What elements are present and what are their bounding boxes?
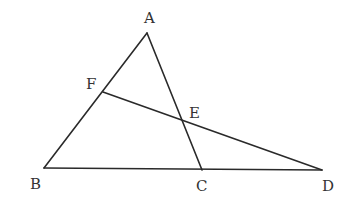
label-f: F [86,75,96,93]
label-a: A [143,9,155,27]
segment-fd [103,92,322,170]
segment-ab [44,33,147,168]
label-e: E [189,104,200,122]
segment-bd [44,168,322,170]
label-b: B [30,175,41,193]
segment-ac [147,33,202,170]
geometry-diagram: A B C D E F [0,0,354,208]
label-d: D [322,177,334,195]
label-c: C [196,177,207,195]
